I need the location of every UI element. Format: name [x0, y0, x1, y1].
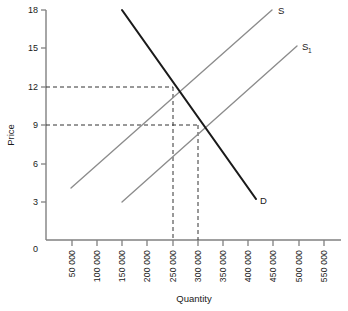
y-axis-title: Price [5, 124, 16, 146]
x-tick-label-100000: 100 000 [92, 250, 102, 282]
chart-canvas: 18 15 12 9 6 3 0 50 000 100 000 150 0 [0, 0, 348, 311]
x-tick-label-200000: 200 000 [142, 250, 152, 282]
y-tick-label-3: 3 [33, 197, 38, 207]
supply-curve-s1-label-subscript: 1 [308, 47, 312, 54]
y-tick-label-9: 9 [33, 120, 38, 130]
x-tick-label-550000: 550 000 [319, 250, 329, 282]
y-tick-label-0: 0 [33, 244, 38, 254]
y-tick-label-15: 15 [28, 43, 38, 53]
y-tick-label-12: 12 [28, 82, 38, 92]
x-tick-label-250000: 250 000 [168, 250, 178, 282]
y-tick-label-18: 18 [28, 5, 38, 15]
x-tick-label-300000: 300 000 [193, 250, 203, 282]
supply-curve-s1 [122, 46, 297, 202]
x-tick-label-350000: 350 000 [218, 250, 228, 282]
supply-curve-s1-label-group: S 1 [302, 41, 312, 54]
y-ticks-group [41, 10, 46, 202]
demand-curve-d-label: D [260, 195, 267, 206]
x-tick-label-400000: 400 000 [243, 250, 253, 282]
x-tick-label-450000: 450 000 [268, 250, 278, 282]
x-tick-label-500000: 500 000 [294, 250, 304, 282]
x-ticks-group [72, 240, 324, 246]
supply-demand-chart: 18 15 12 9 6 3 0 50 000 100 000 150 0 [0, 0, 348, 311]
x-tick-labels-group: 50 000 100 000 150 000 200 000 250 000 3… [67, 250, 329, 282]
x-tick-label-50000: 50 000 [67, 250, 77, 277]
supply-curve-s-label: S [278, 5, 284, 16]
x-axis-title: Quantity [176, 293, 212, 304]
guide-lines-group [46, 87, 198, 240]
supply-curve-s [71, 10, 272, 188]
demand-curve-d [122, 10, 256, 199]
y-tick-labels-group: 18 15 12 9 6 3 0 [28, 5, 38, 254]
y-tick-label-6: 6 [33, 159, 38, 169]
x-tick-label-150000: 150 000 [117, 250, 127, 282]
